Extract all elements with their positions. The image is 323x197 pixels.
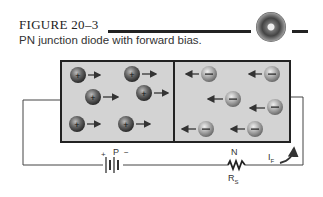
battery-plus-label: + xyxy=(101,150,106,159)
current-arrow-icon xyxy=(280,148,294,163)
svg-text:+: + xyxy=(74,120,79,130)
resistor-icon xyxy=(228,161,245,169)
p-label: P xyxy=(113,147,119,157)
svg-text:+: + xyxy=(123,120,128,130)
svg-text:+: + xyxy=(90,93,95,103)
battery-minus-label: − xyxy=(124,148,129,157)
svg-text:+: + xyxy=(75,71,80,81)
svg-text:+: + xyxy=(141,89,146,99)
resistor-label: RS xyxy=(228,173,239,185)
battery-icon xyxy=(106,157,118,173)
current-label: IF xyxy=(268,152,275,164)
svg-text:+: + xyxy=(129,70,134,80)
n-label: N xyxy=(231,147,238,157)
pn-junction-diagram: + + + + + + + − P N RS IF xyxy=(0,0,323,197)
